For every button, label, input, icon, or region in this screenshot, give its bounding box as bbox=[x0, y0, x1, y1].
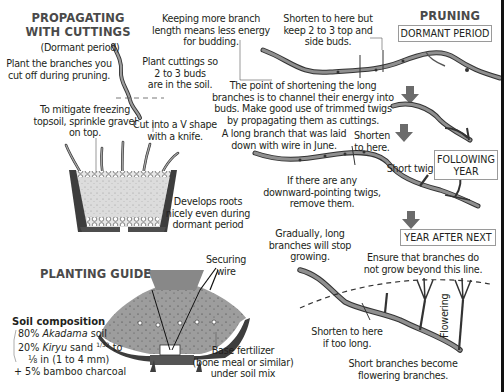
note-line: under soil mix bbox=[192, 368, 294, 380]
note-line: buds. Make good use of trimmed twigs bbox=[210, 103, 396, 115]
stage-dormant-period: DORMANT PERIOD bbox=[398, 25, 492, 42]
planting-guide-heading: PLANTING GUIDE bbox=[40, 268, 140, 282]
note-line: Short branches become bbox=[348, 358, 458, 370]
note-line: 2 to 3 buds bbox=[130, 68, 230, 80]
note-line: Shorten to here bbox=[310, 326, 384, 338]
note-line: by propagating them as cuttings. bbox=[210, 115, 396, 127]
note-gravel: To mitigate freezing topsoil, sprinkle g… bbox=[30, 104, 140, 139]
note-short-twig: Short twig bbox=[386, 163, 434, 175]
stage-year-after-next: YEAR AFTER NEXT bbox=[400, 229, 496, 246]
note-keep-length: Keeping more branch length means less en… bbox=[152, 13, 270, 48]
note-line: Shorten bbox=[352, 130, 392, 142]
pruning-heading: PRUNING bbox=[410, 10, 490, 24]
kiryu-term: Kiryu bbox=[42, 342, 67, 353]
note-line: to here. bbox=[352, 142, 392, 154]
stage-following-year: FOLLOWING YEAR bbox=[434, 150, 498, 180]
note-line: The point of shortening the long bbox=[210, 80, 396, 92]
dormant-branch-illustration bbox=[263, 50, 500, 78]
akadama-term: Akadama bbox=[42, 328, 87, 339]
soil-line-akadama: 80% Akadama soil bbox=[12, 328, 126, 340]
note-line: To mitigate freezing bbox=[30, 104, 140, 116]
stage-line: YEAR bbox=[435, 166, 497, 178]
note-line: flowering branches. bbox=[348, 370, 458, 382]
arrow-3 bbox=[402, 211, 420, 229]
note-line: Plant cuttings so bbox=[130, 56, 230, 68]
rest: soil bbox=[88, 328, 107, 339]
note-line: Keeping more branch bbox=[152, 13, 270, 25]
stage-line: FOLLOWING bbox=[435, 154, 497, 166]
pct: 20% bbox=[18, 342, 42, 353]
note-v-cut: Cut into a V shape with a knife. bbox=[133, 119, 217, 142]
note-line: If there are any bbox=[262, 175, 382, 187]
note-line: downward-pointing twigs, bbox=[262, 187, 382, 199]
note-roots: Develops roots nicely even during dorman… bbox=[163, 196, 253, 231]
note-line: down with wire in June. bbox=[220, 140, 348, 152]
note-line: nicely even during bbox=[163, 208, 253, 220]
note-shorten-keep-buds: Shorten to here but keep 2 to 3 top and … bbox=[280, 13, 376, 48]
note-line: Ensure that branches do bbox=[362, 252, 484, 264]
note-line: length means less energy bbox=[152, 25, 270, 37]
note-point-of-shortening: The point of shortening the long branche… bbox=[210, 80, 396, 126]
rest: to bbox=[110, 342, 123, 353]
soil-line-kiryu: 20% Kiryu sand 1/32 to bbox=[12, 339, 126, 354]
note-base-fertilizer: Base fertilizer (bone meal or similar) u… bbox=[192, 345, 294, 380]
arrow-2 bbox=[395, 124, 413, 142]
note-line: on top. bbox=[30, 127, 140, 139]
note-plant-branches: Plant the branches you cut off during pr… bbox=[5, 58, 113, 81]
propagating-subtitle: (Dormant period) bbox=[30, 42, 130, 54]
note-line: Base fertilizer bbox=[192, 345, 294, 357]
note-line: Gradually, long bbox=[264, 228, 356, 240]
note-securing-wire: Securing wire bbox=[196, 254, 256, 277]
note-line: Securing bbox=[196, 254, 256, 266]
note-line: Plant the branches you bbox=[5, 58, 113, 70]
note-short-branches: Short branches become flowering branches… bbox=[348, 358, 458, 381]
note-line: topsoil, sprinkle gravel bbox=[30, 116, 140, 128]
note-shorten-too-long: Shorten to here if too long. bbox=[310, 326, 384, 349]
propagating-heading: PROPAGATING WITH CUTTINGS bbox=[18, 12, 138, 39]
note-line: A long branch that was laid bbox=[220, 128, 348, 140]
note-line: if too long. bbox=[310, 338, 384, 350]
note-long-branch: A long branch that was laid down with wi… bbox=[220, 128, 348, 151]
soil-line-charcoal: + 5% bamboo charcoal bbox=[12, 366, 126, 378]
note-line: dormant period bbox=[163, 219, 253, 231]
note-gradually: Gradually, long branches will stop growi… bbox=[264, 228, 356, 263]
pct: 80% bbox=[18, 328, 42, 339]
note-line: Shorten to here but bbox=[280, 13, 376, 25]
note-line: (bone meal or similar) bbox=[192, 357, 294, 369]
note-line: wire bbox=[196, 266, 256, 278]
rest: sand bbox=[67, 342, 96, 353]
note-line: with a knife. bbox=[133, 131, 217, 143]
note-line: for budding. bbox=[152, 36, 270, 48]
note-ensure-line: Ensure that branches do not grow beyond … bbox=[362, 252, 484, 275]
note-line: side buds. bbox=[280, 36, 376, 48]
note-shorten-here: Shorten to here. bbox=[352, 130, 392, 153]
note-line: Develops roots bbox=[163, 196, 253, 208]
note-line: branches will stop bbox=[264, 240, 356, 252]
arrow-1 bbox=[401, 86, 419, 104]
note-line: cut off during pruning. bbox=[5, 70, 113, 82]
soil-line-size: ⅛ in (1 to 4 mm) bbox=[12, 354, 126, 366]
note-downward-twigs: If there are any downward-pointing twigs… bbox=[262, 175, 382, 210]
note-line: Cut into a V shape bbox=[133, 119, 217, 131]
note-line: remove them. bbox=[262, 198, 382, 210]
note-line: not grow beyond this line. bbox=[362, 264, 484, 276]
note-line: growing. bbox=[264, 251, 356, 263]
note-flowering-vertical: Flowering bbox=[439, 291, 451, 341]
soil-composition: Soil composition 80% Akadama soil 20% Ki… bbox=[12, 316, 126, 377]
cutting-pot-illustration bbox=[66, 142, 178, 232]
propagating-title-1: PROPAGATING bbox=[18, 12, 138, 26]
note-line: branches is to channel their energy into bbox=[210, 92, 396, 104]
note-line: keep 2 to 3 top and bbox=[280, 25, 376, 37]
fraction: 1/32 bbox=[96, 341, 109, 348]
propagating-title-2: WITH CUTTINGS bbox=[18, 26, 138, 40]
soil-composition-title: Soil composition bbox=[12, 316, 126, 328]
